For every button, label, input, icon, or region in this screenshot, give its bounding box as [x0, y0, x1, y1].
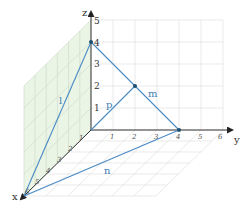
y-tick-3: 3 — [154, 133, 159, 141]
y-tick-4: 4 — [175, 133, 180, 141]
line-p-label: p — [106, 99, 112, 110]
z-tick-1: 1 — [94, 103, 100, 113]
x-tick-4: 4 — [45, 167, 50, 175]
z-tick-4: 4 — [94, 38, 100, 48]
y-tick-2: 2 — [131, 133, 137, 141]
y-tick-5: 5 — [198, 133, 203, 141]
line-n-label: n — [104, 165, 111, 176]
x-tick-2: 2 — [67, 145, 73, 153]
x-axis-label: x — [12, 191, 18, 202]
x-tick-3: 3 — [57, 156, 62, 164]
point-mid — [133, 84, 137, 88]
y-axis-label: y — [233, 134, 240, 145]
xz-plane — [24, 20, 91, 196]
z-tick-5: 5 — [94, 16, 100, 26]
z-tick-3: 3 — [94, 59, 100, 69]
diagram-canvas: z y x 1 2 3 4 5 1 2 3 4 5 6 1 2 3 4 5 6 … — [0, 0, 244, 213]
z-tick-2: 2 — [94, 81, 100, 91]
line-l-label: l — [59, 95, 62, 106]
z-axis-label: z — [82, 7, 87, 18]
y-tick-6: 6 — [218, 133, 223, 141]
point-y4 — [177, 128, 181, 132]
point-z4 — [89, 40, 93, 44]
line-m-label: m — [148, 88, 158, 99]
3d-axes-diagram: z y x 1 2 3 4 5 1 2 3 4 5 6 1 2 3 4 5 6 … — [0, 0, 244, 213]
x-tick-1: 1 — [79, 134, 83, 142]
x-tick-5: 5 — [35, 178, 40, 186]
x-tick-6: 6 — [25, 188, 30, 196]
yz-plane-grid — [91, 20, 223, 130]
y-tick-1: 1 — [110, 133, 114, 141]
